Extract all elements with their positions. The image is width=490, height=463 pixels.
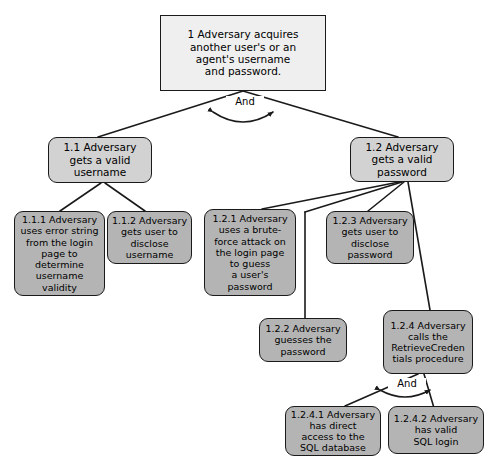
- node-123[interactable]: 1.2.3 Adversary gets user to disclose pa…: [326, 211, 414, 264]
- node-12[interactable]: 1.2 Adversary gets a valid password: [350, 137, 454, 182]
- node-1242[interactable]: 1.2.4.2 Adversary has valid SQL login: [388, 406, 484, 454]
- attack-tree-diagram: 1 Adversary acquires another user's or a…: [0, 0, 490, 463]
- edge-12-to-121: [262, 182, 399, 209]
- node-1-root[interactable]: 1 Adversary acquires another user's or a…: [160, 15, 326, 91]
- node-122[interactable]: 1.2.2 Adversary guesses the password: [259, 318, 347, 362]
- and-gate-label-124: And: [388, 378, 426, 389]
- node-121-label: 1.2.1 Adversary uses a brute- force atta…: [212, 213, 287, 291]
- node-1241-label: 1.2.4.1 Adversary has direct access to t…: [291, 409, 375, 454]
- node-124[interactable]: 1.2.4 Adversary calls the RetrieveCreden…: [383, 310, 473, 374]
- node-123-label: 1.2.3 Adversary gets user to disclose pa…: [332, 215, 407, 260]
- edge-11-to-112: [105, 183, 145, 211]
- and-arc-root: [213, 112, 273, 122]
- edge-12-to-122-seg1: [305, 182, 402, 212]
- and-arc-124: [380, 390, 430, 397]
- edge-root-to-12: [243, 91, 398, 137]
- edge-11-to-111: [60, 183, 101, 211]
- node-11[interactable]: 1.1 Adversary gets a valid username: [48, 137, 152, 183]
- node-1241[interactable]: 1.2.4.1 Adversary has direct access to t…: [285, 406, 381, 456]
- node-111[interactable]: 1.1.1 Adversary uses error string from t…: [14, 211, 105, 296]
- node-121[interactable]: 1.2.1 Adversary uses a brute- force atta…: [204, 209, 296, 296]
- and-gate-label-root: And: [226, 96, 264, 107]
- node-1242-label: 1.2.4.2 Adversary has valid SQL login: [394, 413, 478, 447]
- edge-12-to-123: [368, 182, 404, 211]
- node-11-label: 1.1 Adversary gets a valid username: [63, 141, 136, 178]
- node-124-label: 1.2.4 Adversary calls the RetrieveCreden…: [390, 320, 465, 365]
- node-112[interactable]: 1.1.2 Adversary gets user to disclose us…: [107, 211, 192, 264]
- node-112-label: 1.1.2 Adversary gets user to disclose us…: [112, 215, 187, 260]
- edge-root-to-11: [98, 91, 243, 137]
- node-1-label: 1 Adversary acquires another user's or a…: [188, 28, 299, 78]
- node-111-label: 1.1.1 Adversary uses error string from t…: [20, 214, 98, 292]
- node-122-label: 1.2.2 Adversary guesses the password: [265, 323, 340, 357]
- node-12-label: 1.2 Adversary gets a valid password: [365, 141, 438, 178]
